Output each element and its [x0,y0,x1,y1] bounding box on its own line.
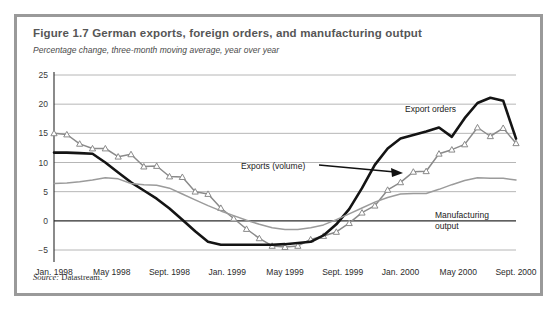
manufacturing-output-label-2: output [435,221,459,231]
y-tick-label-15: 15 [39,128,49,138]
x-tick-label-7: May 2000 [440,267,478,277]
x-tick-label-8: Sept. 2000 [495,267,536,277]
x-tick-label-4: May 1999 [266,267,304,277]
series-marker-0-26 [385,187,391,193]
manufacturing-output-label: Manufacturing [435,210,489,220]
x-tick-label-6: Jan. 2000 [382,267,420,277]
x-tick-label-5: Sept. 1999 [322,267,363,277]
figure-source: Source: Datastream. [33,272,102,282]
chart-canvas: 2520151050−5Jan. 1998May 1998Sept. 1998J… [17,17,546,299]
exports-volume-label: Exports (volume) [241,161,305,171]
x-tick-label-3: Jan. 1999 [209,267,247,277]
export-orders-label: Export orders [405,104,456,114]
y-tick-label-0: 0 [43,216,48,226]
y-tick-label--5: −5 [38,245,48,255]
exports-volume-leader-line [319,165,395,172]
x-tick-label-2: Sept. 1998 [149,267,190,277]
y-tick-label-10: 10 [39,158,49,168]
y-tick-label-25: 25 [39,70,49,80]
exports-volume-arrowhead [391,168,403,177]
y-tick-label-20: 20 [39,99,49,109]
series-marker-0-35 [500,125,506,131]
source-text: Datastream. [59,272,102,282]
figure-panel: Figure 1.7 German exports, foreign order… [14,14,543,296]
series-marker-0-33 [474,124,480,129]
y-tick-label-5: 5 [43,187,48,197]
source-prefix: Source: [33,272,59,282]
